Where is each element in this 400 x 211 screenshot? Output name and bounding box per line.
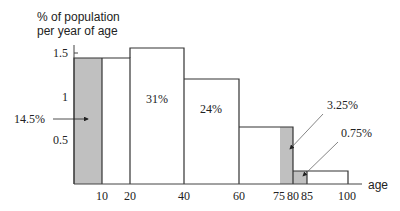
annotation-0-75: 0.75%: [341, 126, 372, 140]
x-tick-label-100: 100: [338, 189, 356, 203]
bar-label-31: 31%: [146, 92, 168, 106]
y-tick-label-1: 1: [62, 90, 68, 104]
x-tick-label-60: 60: [233, 189, 245, 203]
x-tick-label-75: 75: [273, 189, 285, 203]
shaded-region-80-85: [293, 171, 307, 184]
x-tick-label-20: 20: [124, 189, 136, 203]
x-tick-label-80: 80: [287, 189, 299, 203]
annotation-14-5: 14.5%: [14, 112, 45, 126]
shaded-region-0-10: [74, 58, 102, 184]
arrow-3-25: [290, 114, 323, 149]
x-tick-label-10: 10: [96, 189, 108, 203]
y-axis-label: % of population per year of age: [37, 10, 120, 38]
x-axis-label: age: [368, 178, 388, 192]
x-tick-label-85: 85: [301, 189, 313, 203]
y-tick-label-0-5: 0.5: [53, 133, 68, 147]
shaded-region-75-80: [280, 127, 293, 184]
y-axis-label-line2: per year of age: [37, 24, 120, 38]
bar-40-60: [184, 79, 239, 184]
y-tick-label-1-5: 1.5: [53, 46, 68, 60]
bar-20-40: [130, 48, 184, 184]
y-axis-label-line1: % of population: [37, 10, 120, 24]
x-tick-label-40: 40: [178, 189, 190, 203]
histogram-chart: % of population per year of age 1.5: [0, 0, 400, 211]
annotation-3-25: 3.25%: [327, 98, 358, 112]
bar-label-24: 24%: [200, 102, 222, 116]
